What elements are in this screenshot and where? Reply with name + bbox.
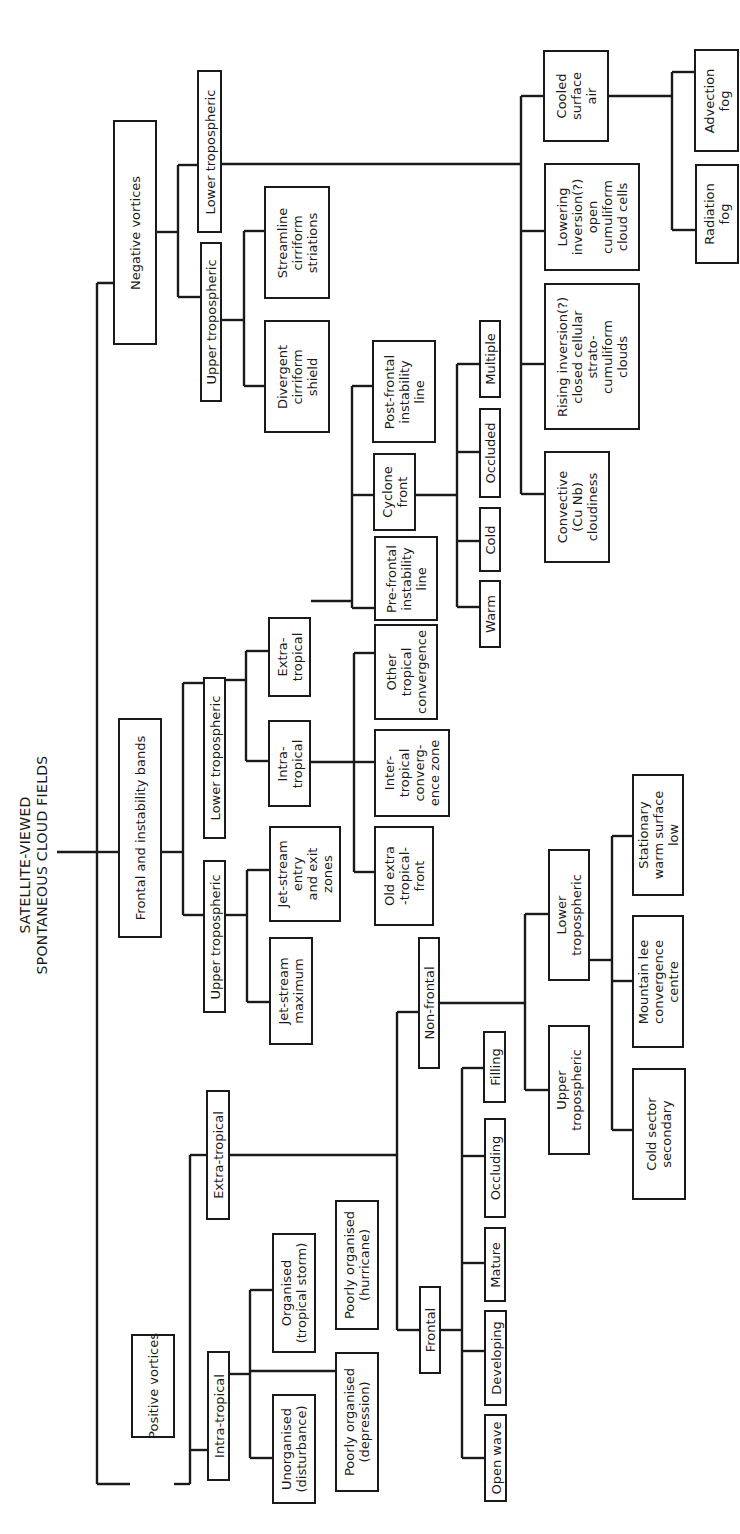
node-lowering-inversion: Lowering inversion(?) open cumuliform cl… — [544, 163, 640, 271]
diagram-title-text: SATELLITE-VIEWED SPONTANEOUS CLOUD FIELD… — [17, 755, 51, 974]
node-itcz: Inter- tropical converg- ence zone — [374, 729, 450, 817]
node-rising-inversion: Rising inversion(?) closed cellular stra… — [544, 283, 640, 430]
node-multiple: Multiple — [479, 320, 501, 398]
node-divergent-cirriform-shield: Divergent cirriform shield — [264, 320, 330, 433]
node-positive-vortices: Positive vortices — [131, 1334, 175, 1438]
node-frontal-instability-bands: Frontal and instability bands — [118, 718, 162, 938]
node-nf-lower-tropospheric: Lower tropospheric — [548, 849, 590, 981]
node-streamline-cirriform-striations: Streamline cirriform striations — [264, 186, 330, 299]
node-open-wave: Open wave — [484, 1414, 507, 1502]
node-cold-sector-secondary: Cold sector secondary — [632, 1068, 686, 1200]
node-fb-extra-tropical: Extra- tropical — [268, 617, 311, 697]
node-filling: Filling — [483, 1031, 506, 1103]
node-jet-stream-entry-exit: Jet-stream entry and exit zones — [269, 826, 341, 922]
node-unorganised: Unorganised (disturbance) — [272, 1394, 316, 1504]
node-post-frontal-instability: Post-frontal instability line — [372, 340, 436, 443]
node-poorly-organised-depression: Poorly organised (depression) — [335, 1352, 379, 1492]
node-cyclone-front: Cyclone front — [373, 453, 416, 531]
node-pv-intra-tropical: Intra-tropical — [207, 1351, 230, 1481]
node-old-extra-tropical-front: Old extra -tropical- front — [374, 826, 434, 926]
node-warm: Warm — [479, 580, 501, 648]
node-radiation-fog: Radiation fog — [695, 164, 739, 264]
node-developing: Developing — [484, 1310, 507, 1406]
node-negative-vortices: Negative vortices — [113, 120, 157, 345]
node-occluding: Occluding — [484, 1118, 506, 1218]
node-non-frontal: Non-frontal — [418, 937, 440, 1069]
node-nv-lower-tropospheric: Lower tropospheric — [197, 70, 222, 233]
node-nv-upper-tropospheric: Upper tropospheric — [200, 242, 222, 402]
node-organised-tropical-storm: Organised (tropical storm) — [272, 1233, 316, 1353]
node-other-tropical-convergence: Other tropical convergence — [374, 624, 438, 720]
node-frontal: Frontal — [419, 1286, 441, 1374]
node-poorly-organised-hurricane: Poorly organised (hurricane) — [335, 1200, 379, 1330]
diagram-title: SATELLITE-VIEWED SPONTANEOUS CLOUD FIELD… — [12, 700, 56, 1030]
node-fb-upper-tropospheric: Upper tropospheric — [203, 860, 226, 1013]
node-fb-intra-tropical: Intra- tropical — [268, 720, 311, 807]
node-pv-extra-tropical: Extra-tropical — [206, 1090, 230, 1220]
node-convective-cu-nb: Convective (Cu Nb) cloudiness — [544, 451, 610, 563]
node-occluded: Occluded — [479, 408, 501, 498]
node-mature: Mature — [484, 1227, 506, 1302]
node-cooled-surface-air: Cooled surface air — [543, 50, 609, 142]
node-nf-upper-tropospheric: Upper tropospheric — [548, 1025, 590, 1155]
node-jet-stream-maximum: Jet-stream maximum — [269, 937, 313, 1045]
node-fb-lower-tropospheric: Lower tropospheric — [203, 677, 226, 839]
node-stationary-warm-surface-low: Stationary warm surface low — [632, 774, 684, 896]
node-cold: Cold — [479, 507, 501, 572]
node-advection-fog: Advection fog — [694, 49, 739, 152]
node-pre-frontal-instability: Pre-frontal instability line — [374, 536, 438, 621]
node-mountain-lee-convergence: Mountain lee convergence centre — [632, 915, 684, 1048]
